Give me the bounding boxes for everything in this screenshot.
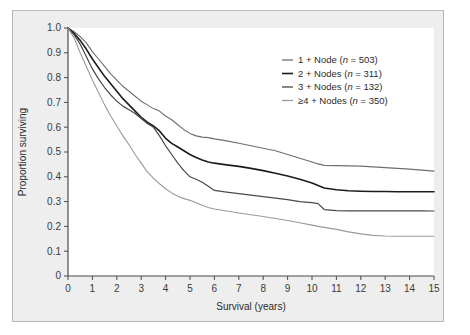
y-tick-label: 0 xyxy=(55,270,61,281)
x-tick-label: 14 xyxy=(404,283,416,294)
x-tick-label: 6 xyxy=(212,283,218,294)
x-tick-label: 15 xyxy=(428,283,440,294)
x-tick-label: 11 xyxy=(331,283,342,294)
y-tick-label: 0.1 xyxy=(47,246,61,257)
x-tick-label: 9 xyxy=(285,283,291,294)
y-tick-label: 0.8 xyxy=(47,72,61,83)
x-tick-label: 7 xyxy=(236,283,242,294)
x-tick-label: 5 xyxy=(187,283,193,294)
y-tick-label: 0.5 xyxy=(47,146,61,157)
survival-curve-chart: 00.10.20.30.40.50.60.70.80.91.0 01234567… xyxy=(0,0,470,335)
y-tick-label: 0.7 xyxy=(47,97,61,108)
y-tick-label: 0.2 xyxy=(47,221,61,232)
y-tick-label: 1.0 xyxy=(47,22,61,33)
legend-label-1: 1 + Node (n = 503) xyxy=(298,54,378,65)
y-axis-ticks: 00.10.20.30.40.50.60.70.80.91.0 xyxy=(47,22,68,281)
y-tick-label: 0.9 xyxy=(47,47,61,58)
x-tick-label: 4 xyxy=(163,283,169,294)
x-tick-label: 13 xyxy=(380,283,392,294)
figure-root: 00.10.20.30.40.50.60.70.80.91.0 01234567… xyxy=(0,0,470,335)
x-axis-title: Survival (years) xyxy=(216,301,285,312)
x-tick-label: 12 xyxy=(355,283,367,294)
y-tick-label: 0.3 xyxy=(47,196,61,207)
legend-label-3: 3 + Nodes (n = 132) xyxy=(298,81,383,92)
x-tick-label: 2 xyxy=(114,283,120,294)
y-tick-label: 0.6 xyxy=(47,122,61,133)
x-tick-label: 0 xyxy=(65,283,71,294)
x-tick-label: 8 xyxy=(260,283,266,294)
legend-label-2: 2 + Nodes (n = 311) xyxy=(298,68,382,79)
x-tick-label: 3 xyxy=(138,283,144,294)
x-tick-label: 10 xyxy=(306,283,318,294)
y-axis-title: Proportion surviving xyxy=(17,108,28,196)
x-tick-label: 1 xyxy=(90,283,96,294)
legend-label-4: ≥4 + Nodes (n = 350) xyxy=(298,95,388,106)
x-axis-ticks: 0123456789101112131415 xyxy=(65,276,440,294)
y-tick-label: 0.4 xyxy=(47,171,61,182)
plot-background xyxy=(68,28,434,276)
